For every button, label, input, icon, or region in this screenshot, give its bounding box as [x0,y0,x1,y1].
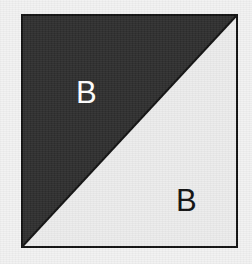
upper-triangle-label: B [76,77,97,108]
square-block: B B [21,14,238,248]
figure-canvas: B B [0,0,252,264]
square-block-svg [21,14,238,248]
lower-triangle-label: B [176,185,197,216]
